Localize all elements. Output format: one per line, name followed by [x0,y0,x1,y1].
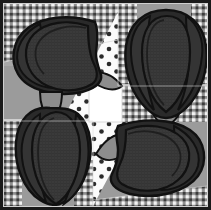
center-white-square [89,86,122,122]
pepper-body [117,126,189,191]
pepper-body [26,22,97,90]
quilt-artwork: Bell Pepper Quilt Block [0,0,211,210]
quilt-canvas [0,0,211,210]
